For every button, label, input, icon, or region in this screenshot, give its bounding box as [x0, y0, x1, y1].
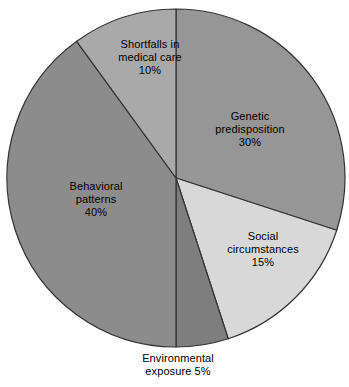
slice-label-line: Environmental	[103, 352, 253, 365]
slice-value: 30%	[196, 136, 304, 149]
slice-label-line: Behavioral	[42, 180, 150, 193]
slice-label-environmental-exposure: Environmental exposure 5%	[103, 352, 253, 378]
slice-label-line: Shortfalls in	[90, 38, 210, 51]
slice-label-line: predisposition	[196, 123, 304, 136]
slice-value: 40%	[42, 206, 150, 219]
slice-label-line: Genetic	[196, 110, 304, 123]
pie-chart: Genetic predisposition 30% Social circum…	[0, 0, 349, 387]
slice-label-social-circumstances: Social circumstances 15%	[208, 230, 318, 269]
slice-label-line: exposure 5%	[103, 365, 253, 378]
slice-label-line: circumstances	[208, 243, 318, 256]
slice-label-genetic-predisposition: Genetic predisposition 30%	[196, 110, 304, 149]
slice-value: 10%	[90, 64, 210, 77]
slice-label-line: patterns	[42, 193, 150, 206]
slice-value: 15%	[208, 256, 318, 269]
slice-label-line: medical care	[90, 51, 210, 64]
slice-label-shortfalls-in-medical-care: Shortfalls in medical care 10%	[90, 38, 210, 77]
slice-label-behavioral-patterns: Behavioral patterns 40%	[42, 180, 150, 219]
slice-label-line: Social	[208, 230, 318, 243]
